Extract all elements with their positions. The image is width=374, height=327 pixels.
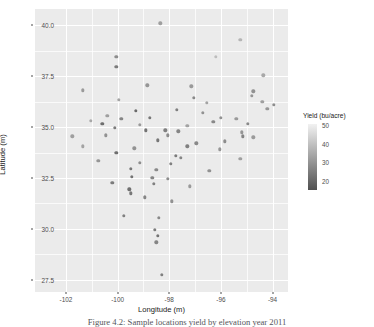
legend-tick-label: 40: [322, 140, 329, 147]
data-point: [106, 114, 109, 117]
data-point: [189, 85, 192, 88]
data-point: [188, 184, 191, 187]
plot-panel: [35, 9, 288, 292]
x-tick-label: -94: [268, 296, 277, 303]
figure-caption: Figure 4.2: Sample locations yield by el…: [0, 317, 374, 327]
gridline-minor-vertical: [195, 9, 196, 292]
data-point: [143, 196, 146, 199]
data-point: [129, 167, 132, 170]
legend-tick-label: 50: [322, 122, 329, 129]
data-point: [120, 117, 123, 120]
x-tick-label: -102: [60, 296, 73, 303]
data-point: [195, 142, 198, 145]
data-point: [148, 116, 151, 119]
x-tick-label: -98: [165, 296, 174, 303]
gridline-minor-horizontal: [35, 254, 288, 255]
data-point: [272, 103, 275, 106]
gridline-major-horizontal: [35, 178, 288, 179]
data-point: [177, 129, 180, 132]
y-tick-mark: [31, 228, 33, 229]
data-point: [241, 135, 244, 138]
data-point: [160, 273, 163, 276]
x-tick-mark: [65, 292, 66, 294]
gridline-major-vertical: [169, 9, 170, 292]
data-point: [246, 122, 249, 125]
x-tick-label: -100: [111, 296, 124, 303]
gridline-minor-horizontal: [35, 153, 288, 154]
gridline-major-horizontal: [35, 280, 288, 281]
data-point: [174, 154, 177, 157]
data-point: [144, 128, 147, 131]
data-point: [250, 94, 253, 97]
y-tick-label: 37.5: [42, 73, 54, 80]
data-point: [81, 89, 84, 92]
data-point: [235, 117, 238, 120]
gridline-major-horizontal: [35, 25, 288, 26]
data-point: [223, 140, 226, 143]
data-point: [151, 176, 154, 179]
data-point: [266, 107, 269, 110]
y-tick-mark: [31, 279, 33, 280]
data-point: [219, 116, 222, 119]
data-point: [240, 130, 243, 133]
data-point: [97, 159, 100, 162]
gridline-major-vertical: [221, 9, 222, 292]
gridline-major-horizontal: [35, 127, 288, 128]
legend: Yield (bu/acre) 50403020: [303, 112, 373, 193]
plot-panel-wrapper: [35, 9, 288, 292]
data-point: [156, 234, 159, 237]
data-point: [201, 111, 204, 114]
gridline-major-vertical: [118, 9, 119, 292]
data-point: [133, 147, 136, 150]
data-point: [214, 55, 217, 58]
data-point: [175, 108, 178, 111]
y-tick-label: 35.0: [42, 124, 54, 131]
data-point: [239, 38, 242, 41]
legend-colorbar: [308, 124, 317, 190]
data-point: [134, 109, 137, 112]
data-point: [104, 134, 107, 137]
gridline-minor-vertical: [143, 9, 144, 292]
y-tick-label: 40.0: [42, 22, 54, 29]
y-tick-mark: [31, 76, 33, 77]
data-point: [251, 90, 254, 93]
data-point: [146, 84, 149, 87]
data-point: [208, 169, 211, 172]
data-point: [239, 157, 242, 160]
gridline-minor-vertical: [92, 9, 93, 292]
data-point: [155, 168, 158, 171]
data-point: [205, 101, 208, 104]
x-tick-mark: [117, 292, 118, 294]
legend-tick-label: 30: [322, 159, 329, 166]
x-tick-label: -96: [216, 296, 225, 303]
data-point: [100, 122, 103, 125]
data-point: [169, 162, 172, 165]
gridline-major-horizontal: [35, 229, 288, 230]
data-point: [138, 161, 141, 164]
x-tick-mark: [169, 292, 170, 294]
gridline-minor-vertical: [247, 9, 248, 292]
y-tick-label: 32.5: [42, 174, 54, 181]
legend-title: Yield (bu/acre): [303, 112, 373, 119]
data-point: [157, 216, 160, 219]
x-tick-mark: [220, 292, 221, 294]
legend-tick-label: 20: [322, 178, 329, 185]
gridline-major-horizontal: [35, 76, 288, 77]
gridline-minor-horizontal: [35, 51, 288, 52]
y-tick-label: 30.0: [42, 225, 54, 232]
data-point: [186, 145, 189, 148]
data-point: [128, 187, 131, 190]
y-tick-mark: [31, 177, 33, 178]
data-point: [179, 156, 182, 159]
data-point: [111, 181, 114, 184]
gridline-major-vertical: [273, 9, 274, 292]
legend-body: 50403020: [303, 121, 373, 193]
y-tick-mark: [31, 127, 33, 128]
data-point: [211, 120, 214, 123]
data-point: [164, 128, 167, 131]
y-tick-label: 27.5: [42, 276, 54, 283]
data-point: [122, 214, 125, 217]
data-point: [260, 100, 263, 103]
gridline-major-vertical: [66, 9, 67, 292]
